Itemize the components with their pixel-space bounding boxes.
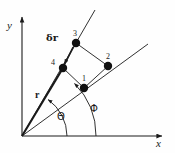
point-3-dot <box>72 39 80 47</box>
axes-group <box>22 17 162 136</box>
delta-r-symbol: r <box>53 32 58 43</box>
rays-group <box>22 10 148 136</box>
polar-displacement-figure: y x 1 2 3 4 Θ Φ r δr <box>0 0 175 153</box>
delta-r-vector-label: δr <box>46 33 58 43</box>
phi-angle-label: Φ <box>90 104 98 114</box>
r-vector-line <box>22 68 63 136</box>
point-3-label: 3 <box>73 30 77 38</box>
delta-r-arrow <box>65 47 74 64</box>
delta-symbol: δ <box>46 32 53 43</box>
r-vector-label: r <box>35 90 39 100</box>
point-1-label: 1 <box>82 75 86 83</box>
points-group <box>59 39 112 92</box>
edge-4-1 <box>63 68 84 88</box>
point-2-dot <box>104 62 112 70</box>
point-4-label: 4 <box>51 59 55 67</box>
edge-1-2 <box>84 66 108 88</box>
x-axis-label: x <box>156 138 161 149</box>
y-axis-label: y <box>7 20 12 31</box>
theta-angle-label: Θ <box>57 112 65 122</box>
delta-r-arrow-line <box>65 47 74 64</box>
edge-2-3 <box>76 43 108 66</box>
figure-canvas <box>0 0 175 153</box>
point-1-dot <box>80 84 88 92</box>
angle-arcs-group <box>48 84 96 137</box>
point-4-dot <box>59 64 67 72</box>
edge-3-4 <box>63 43 76 68</box>
r-vector <box>22 68 63 136</box>
point-2-label: 2 <box>106 53 110 61</box>
